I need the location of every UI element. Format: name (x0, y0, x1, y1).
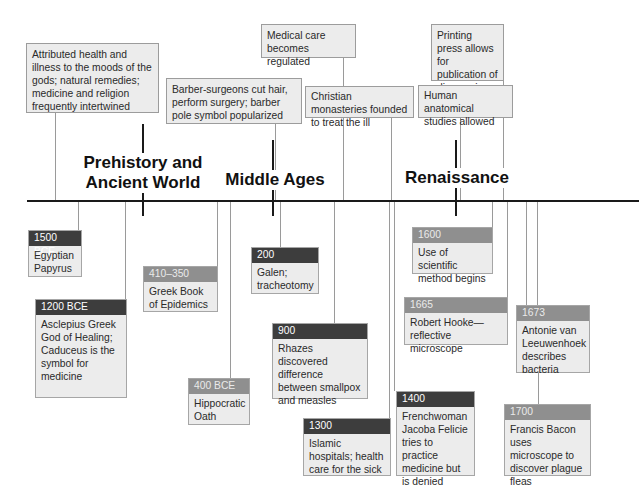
timeline-axis (27, 200, 639, 202)
event-date: 410–350 BCE (144, 267, 217, 282)
event-1665: 1665 Robert Hooke—reflective microscope (404, 297, 508, 345)
event-text: Robert Hooke—reflective microscope (405, 313, 507, 358)
note-christian-monasteries: Christian monasteries founded to treat t… (305, 86, 414, 118)
event-400bce: 400 BCE Hippocratic Oath (188, 378, 250, 425)
event-date: 1665 (405, 298, 507, 313)
event-text: Hippocratic Oath (189, 394, 249, 426)
event-text: Rhazes discovered difference between sma… (273, 339, 367, 410)
era-label-middle-ages: Middle Ages (225, 170, 325, 190)
connector-410bce (217, 201, 218, 266)
connector-top-medical-care (343, 57, 344, 201)
connector-900 (334, 201, 335, 323)
event-text: Use of scientific method begins (413, 243, 492, 288)
connector-1665 (507, 201, 508, 297)
note-barber-surgeons: Barber-surgeons cut hair, perform surger… (166, 78, 302, 124)
event-1300: 1300 Islamic hospitals; health care for … (303, 418, 391, 476)
connector-400bce (230, 201, 231, 378)
event-1673: 1673 Antonie van Leeuwenhoek describes b… (516, 305, 590, 373)
connector-1400 (394, 201, 395, 391)
event-1700: 1700 Francis Bacon uses microscope to di… (504, 404, 591, 476)
event-1400: 1400 Frenchwoman Jacoba Felicie tries to… (396, 391, 475, 476)
event-date: 1500 BCE (29, 231, 81, 246)
era-label-renaissance: Renaissance (405, 168, 505, 188)
event-date: 1200 BCE (36, 300, 126, 315)
era-label-ancient: Prehistory and Ancient World (83, 153, 203, 193)
event-date: 1600 (413, 228, 492, 243)
connector-1300 (389, 201, 390, 418)
connector-top-monasteries (391, 117, 392, 201)
event-date: 1700 (505, 405, 590, 420)
event-text: Egyptian Papyrus (29, 246, 81, 278)
event-200: 200 Galen; tracheotomy (251, 247, 319, 294)
event-1200bce: 1200 BCE Asclepius Greek God of Healing;… (35, 299, 127, 398)
note-printing-press: Printing press allows for publication of… (431, 24, 504, 81)
connector-1600 (492, 201, 493, 227)
connector-200 (280, 201, 281, 247)
event-date: 200 (252, 248, 318, 263)
event-date: 1400 (397, 392, 474, 407)
event-date: 400 BCE (189, 379, 249, 394)
event-text: Frenchwoman Jacoba Felicie tries to prac… (397, 407, 474, 491)
event-text: Antonie van Leeuwenhoek describes bacter… (517, 321, 589, 379)
event-date: 1673 (517, 306, 589, 321)
connector-1500bce (78, 201, 79, 230)
note-medical-care-regulated: Medical care becomes regulated (261, 24, 356, 58)
event-text: Francis Bacon uses microscope to discove… (505, 420, 590, 491)
event-900: 900 Rhazes discovered difference between… (272, 323, 368, 399)
event-410-350bce: 410–350 BCE Greek Book of Epidemics (143, 266, 218, 312)
event-text: Asclepius Greek God of Healing; Caduceus… (36, 315, 126, 386)
connector-1200bce (125, 201, 126, 299)
note-ancient-beliefs: Attributed health and illness to the moo… (26, 43, 159, 113)
note-anatomical-studies: Human anatomical studies allowed (418, 85, 513, 118)
event-1600: 1600 Use of scientific method begins (412, 227, 493, 274)
event-1500bce: 1500 BCE Egyptian Papyrus (28, 230, 82, 277)
event-text: Islamic hospitals; health care for the s… (304, 434, 390, 479)
connector-top-anatomy (460, 117, 461, 201)
connector-1673a (526, 201, 527, 305)
event-text: Galen; tracheotomy (252, 263, 318, 295)
event-text: Greek Book of Epidemics (144, 282, 217, 314)
connector-1673b (537, 201, 538, 305)
event-date: 1300 (304, 419, 390, 434)
event-date: 900 (273, 324, 367, 339)
connector-top-ancient (55, 112, 56, 201)
